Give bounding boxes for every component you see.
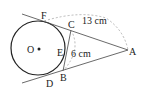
tangent-line-af	[22, 14, 128, 50]
center-dot	[38, 48, 41, 51]
label-e: E	[57, 47, 63, 58]
measure-af: 13 cm	[82, 15, 107, 26]
label-f: F	[41, 10, 47, 21]
label-d: D	[46, 78, 53, 89]
label-o: O	[27, 44, 34, 55]
label-c: C	[68, 19, 75, 30]
measure-bc: 6 cm	[71, 48, 91, 59]
segment-bc	[63, 30, 71, 71]
label-b: B	[60, 72, 67, 83]
geometry-diagram: F C O E B D A 13 cm 6 cm	[0, 0, 142, 97]
label-a: A	[129, 46, 137, 57]
